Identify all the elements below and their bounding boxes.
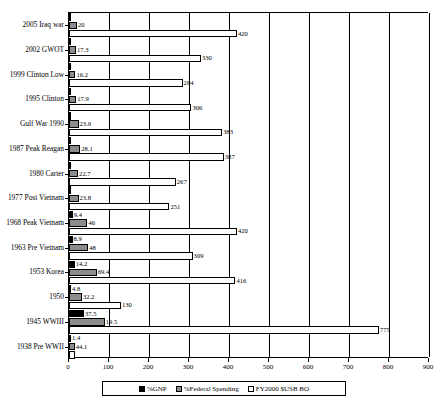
bar-gnp [69, 38, 71, 45]
x-axis-tick [188, 358, 189, 362]
legend-label: %Federal Spending [184, 385, 239, 393]
legend-item: %Federal Spending [176, 385, 239, 393]
chart-row: 2005 Iraq war20420 [69, 13, 428, 38]
bar-fed: 23.9 [69, 120, 79, 127]
bar-gnp: 14.2 [69, 261, 75, 268]
x-axis-tick [268, 358, 269, 362]
bar-value-label: 416 [236, 277, 246, 284]
legend-swatch [176, 386, 182, 392]
chart-row: 1953 Korea14.269.4416 [69, 260, 428, 285]
chart-row: 1963 Pre Vietnam8.948309 [69, 235, 428, 260]
bar-gnp: 4.8 [69, 285, 71, 292]
bar-value-label: 420 [238, 30, 248, 37]
bar-gnp [69, 137, 71, 144]
bar-value-label: 14.2 [76, 261, 88, 268]
x-axis-tick [228, 358, 229, 362]
x-axis-label: 700 [343, 363, 354, 371]
category-label: 2005 Iraq war [23, 22, 64, 29]
x-axis-tick [68, 358, 69, 362]
category-label: 1953 Korea [29, 269, 64, 276]
chart-row: 1938 Pre WWII1.444.1 [69, 334, 428, 359]
bar-value-label: 4.8 [72, 286, 80, 293]
legend-swatch [139, 386, 145, 392]
category-label: 1968 Peak Vietnam [6, 219, 64, 226]
category-label: 1963 Pre Vietnam [11, 244, 64, 251]
x-axis-label: 300 [183, 363, 194, 371]
category-label: 1999 Clinton Low [10, 71, 64, 78]
category-label: Gulf War 1990 [20, 120, 64, 127]
x-axis-tick [348, 358, 349, 362]
bar-gnp: 1.4 [69, 335, 71, 342]
bar-gnp: 8.9 [69, 236, 73, 243]
bar-value-label: 251 [170, 203, 180, 210]
bar-value-label: 19.5 [106, 319, 118, 326]
bar-value-label: 16.2 [76, 71, 88, 78]
x-axis-label: 500 [263, 363, 274, 371]
bar-value-label: 46 [88, 220, 95, 227]
bar-gnp [69, 162, 71, 169]
bar-fed: 44.1 [69, 343, 75, 350]
bar-value-label: 284 [184, 80, 194, 87]
gridline [429, 13, 430, 357]
bar-bo: 387 [69, 153, 224, 160]
category-label: 1945 WWIII [26, 318, 64, 325]
x-axis-tick [388, 358, 389, 362]
bar-bo: 130 [69, 302, 121, 309]
bar-fed: 32.2 [69, 293, 82, 300]
bar-bo [69, 351, 75, 358]
bar-value-label: 330 [202, 55, 212, 62]
bar-gnp [69, 186, 71, 193]
bar-value-label: 1.4 [72, 335, 80, 342]
chart-row: 2002 GWOT17.3330 [69, 38, 428, 63]
bar-value-label: 37.5 [85, 310, 97, 317]
bar-gnp: 9.4 [69, 211, 73, 218]
chart-row: 19504.832.2130 [69, 285, 428, 310]
bar-value-label: 17.3 [77, 47, 89, 54]
bar-fed: 22.7 [69, 170, 78, 177]
bar-fed: 28.1 [69, 145, 80, 152]
x-axis-tick [308, 358, 309, 362]
bar-fed: 17.3 [69, 46, 76, 53]
bar-fed: 69.4 [69, 269, 97, 276]
bar-value-label: 130 [122, 302, 132, 309]
bar-fed: 48 [69, 244, 88, 251]
bar-bo: 383 [69, 129, 222, 136]
chart-row: 1999 Clinton Low16.2284 [69, 62, 428, 87]
chart-row: 1945 WWIII37.519.5775 [69, 310, 428, 335]
chart-row: 1987 Peak Reagan28.1387 [69, 137, 428, 162]
bar-bo: 420 [69, 30, 237, 37]
chart-row: 1977 Post Vietnam23.8251 [69, 186, 428, 211]
category-label: 1938 Pre WWII [17, 343, 64, 350]
bar-fed: 46 [69, 219, 87, 226]
legend-label: %GNP [147, 385, 167, 393]
chart-row: Gulf War 199023.9383 [69, 112, 428, 137]
bar-value-label: 23.8 [80, 195, 92, 202]
bar-value-label: 69.4 [98, 269, 110, 276]
bar-bo: 416 [69, 277, 235, 284]
bar-gnp [69, 88, 71, 95]
bar-value-label: 775 [380, 327, 390, 334]
bar-value-label: 44.1 [76, 343, 88, 350]
bar-value-label: 32.2 [83, 294, 95, 301]
category-label: 1950 [49, 293, 64, 300]
bar-fed: 23.8 [69, 195, 79, 202]
bar-value-label: 20 [78, 22, 85, 29]
bar-value-label: 9.4 [74, 211, 82, 218]
bar-value-label: 23.9 [80, 121, 92, 128]
x-axis-tick [428, 358, 429, 362]
bar-gnp [69, 63, 71, 70]
legend-label: FY2000 $USB BO [256, 385, 309, 393]
bar-value-label: 8.9 [74, 236, 82, 243]
chart-row: 1995 Clinton17.9306 [69, 87, 428, 112]
x-axis-label: 400 [223, 363, 234, 371]
category-label: 1995 Clinton [25, 96, 64, 103]
x-axis-label: 600 [303, 363, 314, 371]
x-axis-label: 900 [423, 363, 434, 371]
legend-item: %GNP [139, 385, 167, 393]
category-label: 1987 Peak Reagan [9, 145, 64, 152]
bar-fed: 16.2 [69, 71, 75, 78]
bar-value-label: 383 [223, 129, 233, 136]
bar-value-label: 309 [194, 253, 204, 260]
bar-bo: 309 [69, 252, 193, 259]
x-axis-label: 100 [103, 363, 114, 371]
